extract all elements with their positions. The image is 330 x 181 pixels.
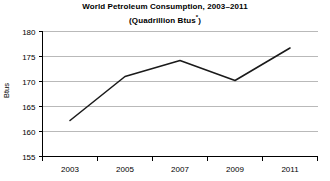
- y-axis-tick-label: 160: [22, 128, 36, 137]
- x-axis-tick-label: 2007: [171, 165, 189, 174]
- y-axis-tick-label: 175: [22, 53, 36, 62]
- y-axis-tick-label: 155: [22, 153, 36, 162]
- y-axis-tick-label: 180: [22, 28, 36, 37]
- plot-area: 155160165170175180 20032005200720092011: [0, 0, 330, 181]
- chart-figure: World Petroleum Consumption, 2003–2011 (…: [0, 0, 330, 181]
- gridlines-group: [43, 32, 318, 157]
- x-axis-tick-label: 2011: [281, 165, 299, 174]
- y-axis-tick-labels-group: 155160165170175180: [22, 28, 36, 162]
- x-axis-ticks-group: [43, 157, 318, 161]
- y-axis-tick-label: 165: [22, 103, 36, 112]
- x-axis-tick-label: 2003: [61, 165, 79, 174]
- x-axis-tick-label: 2009: [226, 165, 244, 174]
- x-axis-tick-label: 2005: [116, 165, 134, 174]
- y-axis-ticks-group: [39, 32, 43, 157]
- data-series-line: [70, 48, 290, 121]
- x-axis-tick-labels-group: 20032005200720092011: [61, 165, 299, 174]
- y-axis-tick-label: 170: [22, 78, 36, 87]
